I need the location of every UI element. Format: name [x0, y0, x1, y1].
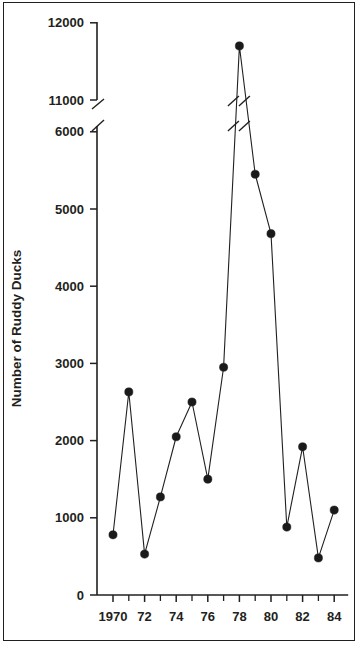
y-tick-label: 0	[77, 588, 84, 603]
series-break-slash-upper	[239, 96, 250, 106]
axis-break-slash-lower	[92, 120, 104, 131]
x-tick-label: 84	[327, 609, 342, 624]
data-point	[204, 475, 212, 483]
y-tick-label: 6000	[55, 124, 84, 139]
series-break-slash-lower	[239, 121, 250, 131]
series-break-slash-upper	[228, 96, 239, 106]
y-tick-label: 3000	[55, 356, 84, 371]
x-tick-label: 74	[169, 609, 184, 624]
y-tick-label: 12000	[48, 15, 84, 30]
data-series	[109, 42, 338, 562]
data-point	[251, 170, 259, 178]
x-axis: 197072747678808284	[97, 595, 348, 624]
x-tick-label: 82	[295, 609, 309, 624]
data-point	[314, 554, 322, 562]
y-tick-label: 4000	[55, 279, 84, 294]
plot-area: 01000200030004000500060001100012000 1970…	[0, 0, 358, 647]
y-tick-label: 2000	[55, 433, 84, 448]
x-tick-label: 72	[137, 609, 151, 624]
y-axis-title: Number of Ruddy Ducks	[9, 250, 24, 408]
data-point	[267, 230, 275, 238]
y-axis: 01000200030004000500060001100012000	[48, 15, 97, 602]
y-tick-label: 1000	[55, 510, 84, 525]
data-point	[235, 42, 243, 50]
series-break-slash-lower	[228, 121, 239, 131]
data-point	[141, 550, 149, 558]
series-polyline	[113, 46, 334, 558]
axis-labels: Number of Ruddy Ducks	[9, 250, 24, 408]
data-point	[299, 443, 307, 451]
data-point	[330, 506, 338, 514]
data-point	[109, 531, 117, 539]
data-point	[283, 523, 291, 531]
data-point	[156, 493, 164, 501]
data-point	[220, 363, 228, 371]
data-point	[172, 433, 180, 441]
y-tick-label: 11000	[49, 93, 84, 108]
figure-container: 01000200030004000500060001100012000 1970…	[0, 0, 358, 647]
x-tick-label: 80	[264, 609, 278, 624]
x-tick-label: 1970	[99, 609, 128, 624]
x-tick-label: 78	[232, 609, 246, 624]
x-tick-label: 76	[201, 609, 215, 624]
line-chart: 01000200030004000500060001100012000 1970…	[0, 0, 358, 647]
data-point	[125, 388, 133, 396]
y-tick-label: 5000	[55, 202, 84, 217]
axis-break-marks	[92, 96, 250, 131]
data-point	[188, 398, 196, 406]
